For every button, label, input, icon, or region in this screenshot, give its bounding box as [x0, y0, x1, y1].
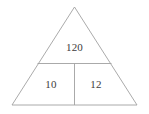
geometry-figure: 120 10 12 — [0, 0, 149, 114]
region-label-bottom-right: 12 — [90, 79, 101, 90]
region-label-bottom-left: 10 — [45, 79, 56, 90]
triangle-diagram-svg — [0, 0, 149, 114]
region-label-top: 120 — [66, 42, 83, 53]
